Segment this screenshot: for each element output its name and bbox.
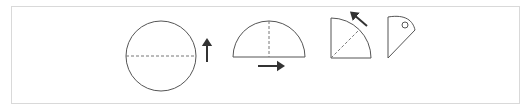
diagonal-up-left-arrow	[353, 14, 367, 26]
quarter-circle-diagonal-axis-dashed	[331, 30, 359, 58]
figure-semicircle-with-vertical-axis	[233, 21, 305, 66]
figure-quarter-circle-with-diagonal-axis	[331, 14, 371, 58]
figures-canvas	[0, 0, 532, 109]
figure-circle-with-horizontal-axis	[126, 21, 207, 91]
cone-profile-outline	[388, 16, 415, 58]
small-circle-marker	[402, 22, 408, 28]
figure-cone-profile-with-circle-marker	[388, 16, 415, 58]
